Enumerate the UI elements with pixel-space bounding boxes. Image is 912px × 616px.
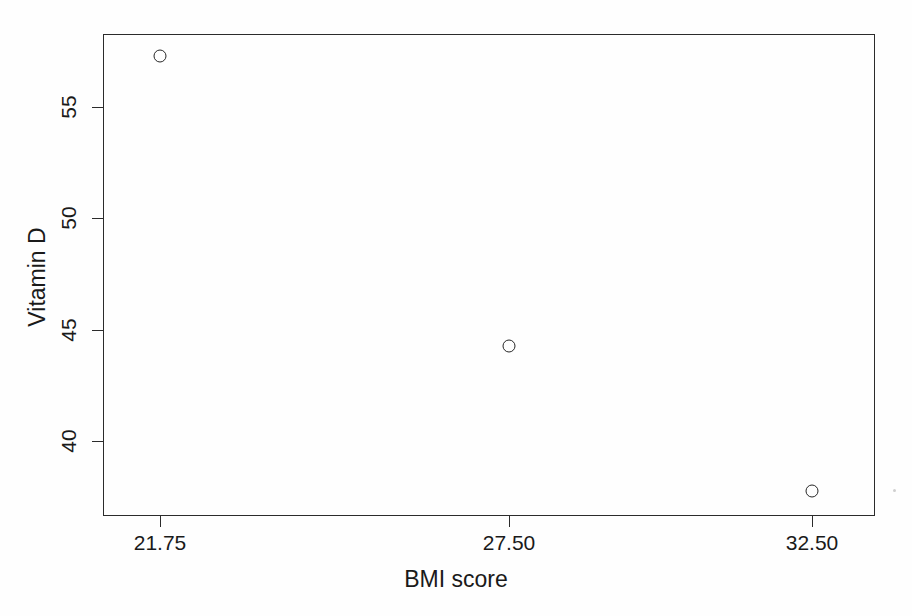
y-tick-mark-40 bbox=[92, 441, 103, 442]
data-point bbox=[154, 50, 167, 63]
data-point bbox=[806, 485, 819, 498]
x-tick-label-27-50: 27.50 bbox=[483, 531, 536, 555]
x-tick-label-21-75: 21.75 bbox=[134, 531, 187, 555]
y-tick-mark-45 bbox=[92, 330, 103, 331]
x-tick-mark-27-50 bbox=[509, 516, 510, 527]
y-tick-label-50: 50 bbox=[57, 193, 81, 243]
x-axis-title: BMI score bbox=[0, 566, 912, 593]
x-tick-label-32-50: 32.50 bbox=[786, 531, 839, 555]
plot-frame bbox=[103, 34, 875, 516]
scatter-plot-figure: 55 50 45 40 Vitamin D 21.75 27.50 32.50 … bbox=[0, 0, 912, 616]
y-axis-title: Vitamin D bbox=[23, 197, 51, 357]
x-tick-mark-21-75 bbox=[160, 516, 161, 527]
scan-artifact-speck bbox=[893, 489, 896, 492]
data-point bbox=[503, 340, 516, 353]
y-tick-label-45: 45 bbox=[57, 305, 81, 355]
y-tick-label-40: 40 bbox=[57, 416, 81, 466]
y-tick-mark-50 bbox=[92, 218, 103, 219]
x-tick-mark-32-50 bbox=[812, 516, 813, 527]
y-tick-label-55: 55 bbox=[57, 82, 81, 132]
y-tick-mark-55 bbox=[92, 107, 103, 108]
